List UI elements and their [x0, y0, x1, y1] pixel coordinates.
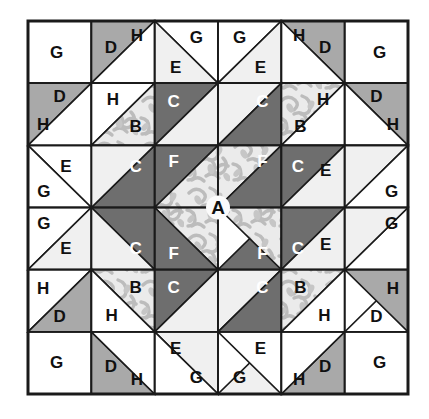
quilt-piece-g — [28, 332, 91, 394]
quilt-piece-g — [345, 332, 408, 394]
quilt-diagram-container: GDHGEGEDHGDHHBCCBHDHEGCFFCEGGECFFCEGHDBH… — [0, 0, 429, 419]
quilt-piece-g — [345, 21, 408, 83]
center-label-disc — [206, 196, 230, 220]
quilt-piece-g — [28, 21, 91, 83]
quilt-block-svg: GDHGEGEDHGDHHBCCBHDHEGCFFCEGGECFFCEGHDBH… — [0, 0, 429, 419]
